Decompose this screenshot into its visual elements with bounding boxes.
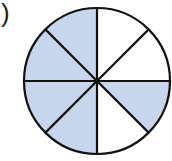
- center-dot: [95, 79, 99, 83]
- fraction-circle: [0, 0, 172, 161]
